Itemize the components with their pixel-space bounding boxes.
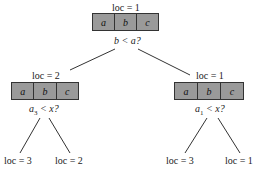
edge-right-leaf1 <box>185 118 207 153</box>
leaf-left-1: loc = 3 <box>4 155 32 166</box>
left-question-rest: < x? <box>38 103 59 114</box>
leaf-left-2: loc = 2 <box>55 155 83 166</box>
right-question-rest: < x? <box>204 103 225 114</box>
edge-left-leaf1 <box>20 118 40 153</box>
left-cell-a: a <box>12 83 34 99</box>
right-cell-a: a <box>175 83 198 99</box>
root-cell-b: b <box>115 14 137 30</box>
root-array: a b c <box>92 13 159 31</box>
root-question: b < a? <box>114 35 141 46</box>
leaf-right-2: loc = 1 <box>225 155 253 166</box>
edge-root-left <box>70 49 115 70</box>
root-cell-c: c <box>137 14 158 30</box>
root-loc-label: loc = 1 <box>112 2 140 13</box>
edge-root-right <box>138 49 190 75</box>
left-question: a3 < x? <box>29 103 59 119</box>
left-loc-label: loc = 2 <box>32 70 60 81</box>
right-question: a1 < x? <box>195 103 225 119</box>
left-cell-b: b <box>34 83 56 99</box>
right-cell-b: b <box>198 83 221 99</box>
left-cell-c: c <box>57 83 78 99</box>
right-cell-c: c <box>221 83 243 99</box>
right-loc-label: loc = 1 <box>196 70 224 81</box>
right-array: a b c <box>174 82 244 100</box>
edge-left-leaf2 <box>49 118 70 153</box>
edge-right-leaf2 <box>218 118 240 153</box>
left-array: a b c <box>11 82 79 100</box>
leaf-right-1: loc = 3 <box>166 155 194 166</box>
root-cell-a: a <box>93 14 115 30</box>
